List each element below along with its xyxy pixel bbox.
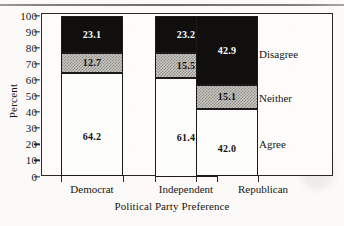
bar-segment-agree: 64.2 <box>61 73 123 176</box>
y-tick-label: 20 <box>26 138 37 150</box>
bar-segment-neither: 12.7 <box>61 53 123 73</box>
bar-value-label: 15.5 <box>177 60 195 71</box>
x-tick-label-republican: Republican <box>238 183 288 195</box>
y-tick-label: 90 <box>26 26 37 38</box>
scan-artifact-line <box>0 4 344 6</box>
y-tick-label: 40 <box>26 106 37 118</box>
bar-segment-disagree: 42.9 <box>196 16 258 85</box>
y-tick-label: 60 <box>26 74 37 86</box>
y-tick-label: 30 <box>26 122 37 134</box>
x-tick <box>123 176 124 182</box>
bar-segment-neither: 15.1 <box>196 85 258 109</box>
bar-segment-agree: 42.0 <box>196 109 258 177</box>
y-tick-label: 80 <box>26 42 37 54</box>
bar-value-label: 23.1 <box>83 29 101 40</box>
bar-value-label: 61.4 <box>177 132 195 143</box>
legend-label-neither: Neither <box>259 92 292 104</box>
legend-label-disagree: Disagree <box>259 48 298 60</box>
bar-republican[interactable]: 42.9 15.1 42.0 <box>196 16 258 177</box>
y-tick-label: 70 <box>26 58 37 70</box>
x-tick <box>61 176 62 182</box>
bar-value-label: 15.1 <box>218 91 236 102</box>
bar-value-label: 42.9 <box>218 45 236 56</box>
y-tick-label: 50 <box>26 90 37 102</box>
bar-segment-disagree: 23.1 <box>61 16 123 53</box>
x-tick-label-democrat: Democrat <box>70 183 113 195</box>
bar-democrat[interactable]: 23.1 12.7 64.2 <box>61 16 123 177</box>
y-tick-label: 100 <box>20 10 37 22</box>
x-tick-label-independent: Independent <box>159 183 213 195</box>
y-axis: 100 90 80 70 60 50 40 30 20 10 0 <box>0 0 41 226</box>
x-axis-title: Political Party Preference <box>0 200 344 212</box>
y-tick-label: 10 <box>26 154 37 166</box>
bar-value-label: 12.7 <box>83 57 101 68</box>
y-tick-label: 0 <box>31 171 37 183</box>
bar-value-label: 23.2 <box>177 29 195 40</box>
x-tick <box>196 176 197 182</box>
x-tick <box>258 176 259 182</box>
x-tick <box>217 176 218 182</box>
chart-figure: Percent 100 90 80 70 60 50 40 30 20 10 0… <box>0 0 344 226</box>
bar-value-label: 42.0 <box>218 143 236 154</box>
x-tick <box>155 176 156 182</box>
legend-label-agree: Agree <box>259 138 286 150</box>
bar-value-label: 64.2 <box>83 131 101 142</box>
